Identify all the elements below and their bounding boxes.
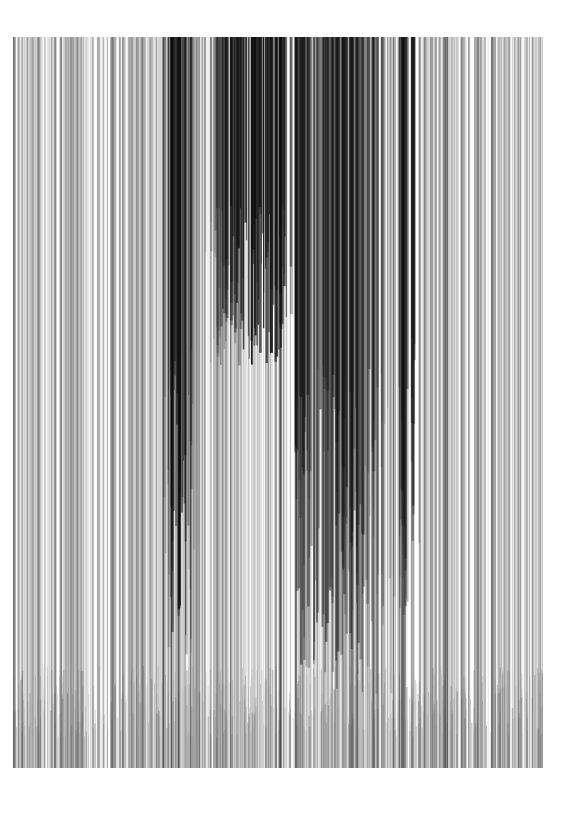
vertical-lines-artwork [13, 37, 543, 768]
lines-canvas [13, 37, 543, 768]
